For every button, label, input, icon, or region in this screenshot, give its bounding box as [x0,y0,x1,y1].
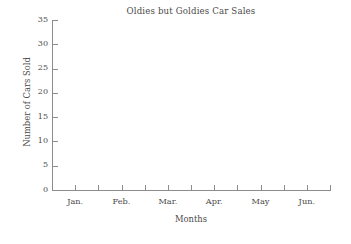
x-axis-tick [214,185,215,190]
y-axis-tick [53,93,58,94]
x-axis-tick [168,185,169,190]
x-axis-tick-label: Mar. [145,197,191,205]
y-axis-tick [53,44,58,45]
x-axis-tick-label: Feb. [99,197,145,205]
y-axis-tick [53,20,58,21]
x-axis-title: Months [52,214,330,224]
x-axis-tick-label: Jun. [284,197,330,205]
x-axis-line [52,190,331,191]
y-axis-tick [53,69,58,70]
y-axis-tick [53,190,58,191]
x-axis-tick [261,185,262,190]
x-axis-tick [237,185,238,190]
y-axis-tick [53,117,58,118]
x-axis-tick-label: May [238,197,284,205]
y-axis-tick-label: 0 [28,186,48,195]
x-axis-tick [52,185,53,190]
plot-area [52,20,330,190]
y-axis-tick-label: 35 [28,16,48,25]
x-axis-tick [98,185,99,190]
y-axis-line [52,20,53,190]
x-axis-tick-label: Apr. [191,197,237,205]
x-axis-tick [330,185,331,190]
y-axis-tick-label-text: 35 [28,16,48,24]
x-axis-tick [145,185,146,190]
x-axis-tick [191,185,192,190]
x-axis-tick [75,185,76,190]
chart-title: Oldies but Goldies Car Sales [52,6,330,16]
chart-screenshot: Oldies but Goldies Car Sales 05101520253… [0,0,351,244]
x-axis-tick-label: Jan. [52,197,98,205]
x-axis-tick [284,185,285,190]
x-axis-tick [307,185,308,190]
y-axis-tick [53,166,58,167]
y-axis-tick [53,141,58,142]
y-axis-title: Number of Cars Sold [22,27,32,177]
y-axis-tick-label-text: 0 [28,186,48,194]
x-axis-tick [122,185,123,190]
